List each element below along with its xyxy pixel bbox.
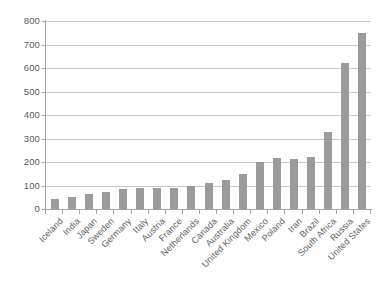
y-axis-tick-label: 300 xyxy=(24,134,40,144)
y-axis-tick-label: 0 xyxy=(35,204,40,214)
x-axis-tick xyxy=(267,210,268,214)
x-axis-tick xyxy=(165,210,166,214)
bar[interactable] xyxy=(136,188,144,209)
bar[interactable] xyxy=(324,132,332,209)
bars-layer xyxy=(46,21,371,209)
bar[interactable] xyxy=(68,197,76,209)
y-axis-tick-label: 600 xyxy=(24,63,40,73)
bar[interactable] xyxy=(205,183,213,209)
bar[interactable] xyxy=(273,158,281,209)
x-axis-tick xyxy=(216,210,217,214)
bar[interactable] xyxy=(239,174,247,209)
x-axis-tick xyxy=(319,210,320,214)
x-axis-tick xyxy=(113,210,114,214)
bar[interactable] xyxy=(119,189,127,209)
y-axis-tick-label: 700 xyxy=(24,40,40,50)
bar[interactable] xyxy=(307,157,315,209)
bar[interactable] xyxy=(358,33,366,209)
y-axis-tick-label: 500 xyxy=(24,87,40,97)
x-axis-tick xyxy=(370,210,371,214)
bar[interactable] xyxy=(341,63,349,209)
x-axis-tick xyxy=(148,210,149,214)
bar[interactable] xyxy=(170,188,178,209)
y-axis-tick-label: 200 xyxy=(24,157,40,167)
x-axis-tick xyxy=(62,210,63,214)
y-axis-tick-label: 400 xyxy=(24,110,40,120)
bar[interactable] xyxy=(51,199,59,209)
x-axis-tick xyxy=(199,210,200,214)
x-axis-tick xyxy=(96,210,97,214)
bar[interactable] xyxy=(222,180,230,209)
bar[interactable] xyxy=(102,192,110,209)
bar[interactable] xyxy=(153,188,161,209)
x-axis-tick xyxy=(302,210,303,214)
x-axis-tick xyxy=(45,210,46,214)
x-axis-tick xyxy=(336,210,337,214)
bar[interactable] xyxy=(290,159,298,209)
x-axis-tick xyxy=(182,210,183,214)
bar-chart: 0100200300400500600700800 IcelandIndiaJa… xyxy=(0,0,379,286)
x-axis-tick xyxy=(353,210,354,214)
plot-area: 0100200300400500600700800 xyxy=(46,21,371,209)
x-axis-tick xyxy=(131,210,132,214)
bar[interactable] xyxy=(187,186,195,209)
bar[interactable] xyxy=(85,194,93,209)
x-axis-labels: IcelandIndiaJapanSwedenGermanyItalyAustr… xyxy=(45,216,372,286)
y-axis-tick-label: 800 xyxy=(24,16,40,26)
x-axis-tick xyxy=(284,210,285,214)
x-axis-ticks xyxy=(45,210,372,214)
x-axis-tick xyxy=(79,210,80,214)
x-axis-tick xyxy=(250,210,251,214)
x-axis-tick xyxy=(233,210,234,214)
y-axis-tick-label: 100 xyxy=(24,181,40,191)
bar[interactable] xyxy=(256,162,264,209)
